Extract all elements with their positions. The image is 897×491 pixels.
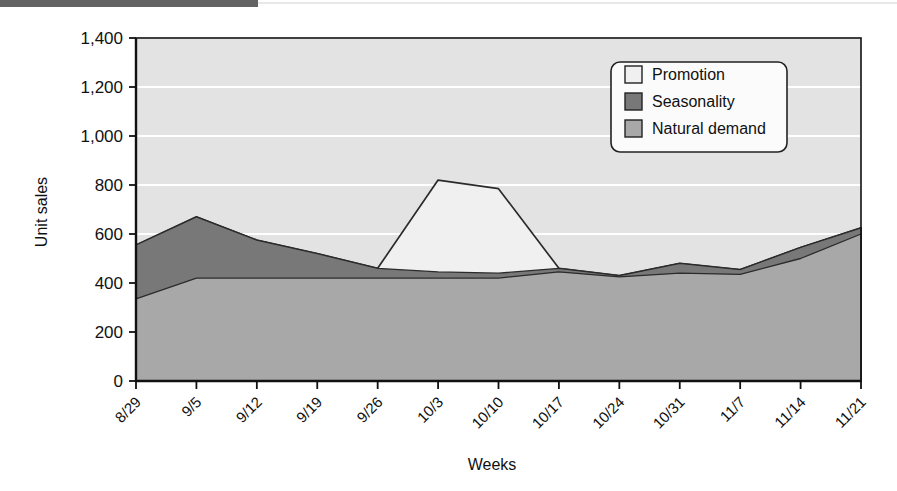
legend-swatch-natural-demand: [625, 120, 642, 137]
y-tick-label: 0: [114, 372, 123, 391]
legend-swatch-seasonality: [625, 93, 642, 110]
x-axis-ticks: 8/299/59/129/199/2610/310/1010/1710/2410…: [111, 381, 869, 432]
y-tick-label: 400: [95, 274, 123, 293]
y-axis-title: Unit sales: [33, 177, 50, 247]
x-tick-label: 11/7: [716, 393, 748, 425]
y-tick-label: 200: [95, 323, 123, 342]
x-tick-label: 10/31: [649, 393, 688, 432]
x-tick-label: 10/17: [528, 393, 567, 432]
chart-legend[interactable]: PromotionSeasonalityNatural demand: [611, 62, 787, 152]
legend-label-seasonality: Seasonality: [652, 93, 735, 110]
y-tick-label: 1,000: [80, 127, 123, 146]
y-axis-ticks: 02004006008001,0001,2001,400: [80, 29, 136, 391]
unit-sales-area-chart: 02004006008001,0001,2001,400 8/299/59/12…: [0, 0, 897, 491]
x-tick-label: 11/14: [771, 393, 809, 431]
x-tick-label: 9/26: [353, 393, 386, 426]
x-tick-label: 10/10: [468, 393, 507, 432]
x-tick-label: 10/3: [414, 393, 447, 426]
x-tick-label: 10/24: [589, 393, 628, 432]
x-tick-label: 9/5: [178, 393, 205, 420]
x-tick-label: 9/19: [293, 393, 326, 426]
x-tick-label: 11/21: [831, 393, 869, 431]
legend-label-promotion: Promotion: [652, 66, 725, 83]
legend-label-natural-demand: Natural demand: [652, 120, 766, 137]
y-tick-label: 1,400: [80, 29, 123, 48]
x-tick-label: 9/12: [232, 393, 265, 426]
x-tick-label: 8/29: [111, 393, 144, 426]
y-tick-label: 800: [95, 176, 123, 195]
y-tick-label: 600: [95, 225, 123, 244]
legend-swatch-promotion: [625, 66, 642, 83]
chart-figure: 02004006008001,0001,2001,400 8/299/59/12…: [0, 0, 897, 491]
x-axis-title: Weeks: [468, 456, 517, 473]
y-tick-label: 1,200: [80, 78, 123, 97]
